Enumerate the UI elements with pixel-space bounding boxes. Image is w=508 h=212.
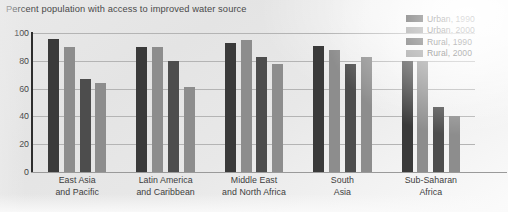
bar-groups [33,33,475,172]
y-tick-label: 20 [3,139,29,149]
bar [95,83,106,172]
chart-title: Percent population with access to improv… [6,4,247,14]
bar [152,47,163,172]
x-axis-labels: East Asiaand PacificLatin Americaand Car… [33,175,475,209]
legend-label-urban-1990: Urban, 1990 [427,14,475,24]
bar [329,50,340,172]
y-tick-label: 80 [3,56,29,66]
x-axis-line [31,172,507,173]
bar-group [210,33,298,172]
bar [168,61,179,172]
bar [417,61,428,172]
bar [361,57,372,172]
x-tick-label-line: Latin America [121,175,209,187]
y-tick-label: 40 [3,111,29,121]
x-tick-label-line: Asia [298,187,386,199]
x-tick-label: Sub-SaharanAfrica [387,175,475,209]
x-tick-label-line: South [298,175,386,187]
legend-swatch-urban-1990 [406,15,423,22]
x-tick-label-line: Africa [387,187,475,199]
x-tick-label-line: and Caribbean [121,187,209,199]
bar-group [387,33,475,172]
bar-group [298,33,386,172]
y-tick-label: 100 [3,28,29,38]
legend-item-urban-1990: Urban, 1990 [406,13,506,24]
bar [345,64,356,172]
bar-group [33,33,121,172]
x-tick-label-line: and North Africa [210,187,298,199]
bar [256,57,267,172]
x-tick-label: Latin Americaand Caribbean [121,175,209,209]
x-tick-label-line: Sub-Saharan [387,175,475,187]
bar-group [121,33,209,172]
y-axis-labels: 100806040200 [0,33,29,172]
plot-area [33,33,475,172]
x-tick-label-line: Middle East [210,175,298,187]
bar [225,43,236,172]
bar [48,39,59,172]
chart-figure: Percent population with access to improv… [0,0,508,212]
bar [272,64,283,172]
bar [64,47,75,172]
y-tick-label: 0 [3,167,29,177]
x-tick-label-line: and Pacific [33,187,121,199]
bar [402,61,413,172]
x-tick-label: East Asiaand Pacific [33,175,121,209]
bar [80,79,91,172]
bar [313,46,324,172]
bar [433,107,444,172]
bar [184,87,195,172]
x-tick-label: SouthAsia [298,175,386,209]
x-tick-label: Middle Eastand North Africa [210,175,298,209]
bar [449,116,460,172]
bar [241,40,252,172]
y-tick-label: 60 [3,84,29,94]
x-tick-label-line: East Asia [33,175,121,187]
bar [136,47,147,172]
